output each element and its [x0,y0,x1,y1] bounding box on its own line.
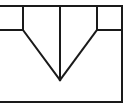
diagram-background [0,0,127,107]
line-diagram [0,0,127,107]
diagram-canvas [0,0,127,107]
